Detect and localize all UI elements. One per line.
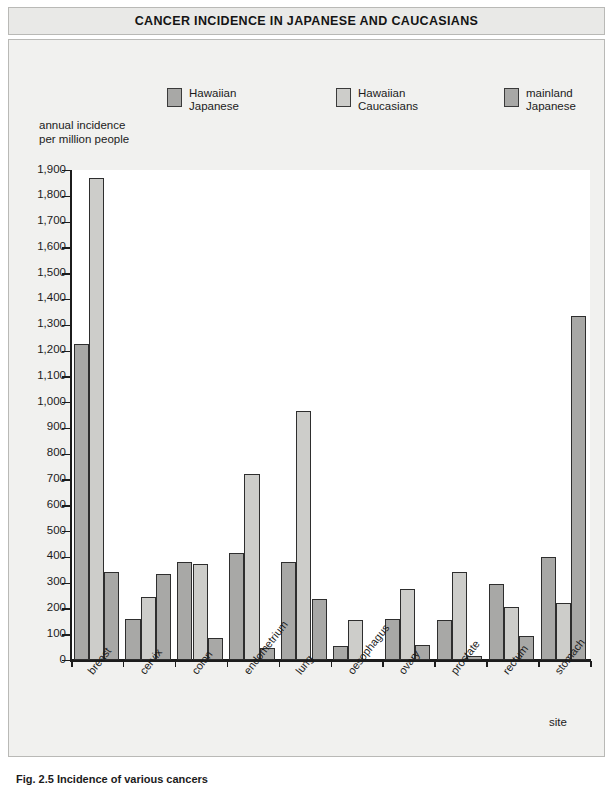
- y-axis-tick-label: 900: [47, 420, 66, 432]
- chart-panel: Hawaiian Japanese Hawaiian Caucasians ma…: [8, 39, 605, 757]
- x-axis-title: site: [549, 716, 567, 728]
- y-axis-tick-label: 1,800: [37, 188, 66, 200]
- y-axis-tick-label: 1,300: [37, 317, 66, 329]
- bar: [437, 620, 452, 660]
- bar: [156, 574, 171, 660]
- bar: [74, 344, 89, 660]
- plot-wrapper: 01002003004005006007008009001,0001,1001,…: [71, 170, 590, 660]
- y-axis-tick-label: 1,500: [37, 266, 66, 278]
- y-axis-tick-label: 1,900: [37, 163, 66, 175]
- x-axis-tick-mark: [123, 661, 125, 667]
- bar: [296, 411, 311, 660]
- y-axis-tick-label: 800: [47, 446, 66, 458]
- x-axis-tick-mark: [175, 661, 177, 667]
- legend-label: Hawaiian Caucasians: [358, 87, 418, 113]
- bar: [312, 599, 327, 660]
- y-axis-tick-label: 0: [60, 653, 66, 665]
- bar: [489, 584, 504, 660]
- legend-item-hawaiian-caucasians: Hawaiian Caucasians: [336, 87, 418, 113]
- x-axis-tick-mark: [538, 661, 540, 667]
- y-axis-tick-label: 100: [47, 627, 66, 639]
- y-axis-tick-label: 700: [47, 472, 66, 484]
- x-axis-tick-mark: [279, 661, 281, 667]
- y-axis-tick-label: 1,100: [37, 369, 66, 381]
- legend-item-hawaiian-japanese: Hawaiian Japanese: [167, 87, 239, 113]
- x-axis-tick-mark: [382, 661, 384, 667]
- x-axis-tick-mark: [71, 661, 73, 667]
- bar: [229, 553, 244, 660]
- y-axis-caption: annual incidence per million people: [39, 118, 129, 146]
- y-axis-tick-label: 1,700: [37, 214, 66, 226]
- legend-label: mainland Japanese: [526, 87, 576, 113]
- x-axis-tick-mark: [590, 661, 592, 667]
- y-axis-tick-label: 1,600: [37, 240, 66, 252]
- y-axis-tick-label: 1,400: [37, 291, 66, 303]
- y-axis-tick-label: 500: [47, 524, 66, 536]
- bar: [333, 646, 348, 660]
- x-axis-tick-mark: [227, 661, 229, 667]
- bar: [281, 562, 296, 660]
- bar: [193, 564, 208, 660]
- legend-swatch-icon: [167, 88, 182, 107]
- y-axis-tick-label: 200: [47, 601, 66, 613]
- bar: [125, 619, 140, 660]
- page-title: CANCER INCIDENCE IN JAPANESE AND CAUCASI…: [135, 14, 479, 28]
- legend-swatch-icon: [336, 88, 351, 107]
- legend-swatch-icon: [504, 88, 519, 107]
- y-axis-tick-label: 300: [47, 575, 66, 587]
- bar: [89, 178, 104, 660]
- plot-area: [71, 170, 590, 660]
- x-axis-tick-mark: [486, 661, 488, 667]
- x-axis-tick-mark: [331, 661, 333, 667]
- figure: CANCER INCIDENCE IN JAPANESE AND CAUCASI…: [8, 7, 605, 759]
- bar: [244, 474, 259, 660]
- bar: [571, 316, 586, 660]
- bar: [541, 557, 556, 660]
- figure-caption: Fig. 2.5 Incidence of various cancers: [16, 773, 208, 785]
- legend-label: Hawaiian Japanese: [189, 87, 239, 113]
- y-axis-line: [70, 170, 72, 661]
- y-axis-tick-label: 1,200: [37, 343, 66, 355]
- y-axis-tick-label: 600: [47, 498, 66, 510]
- chart-title-bar: CANCER INCIDENCE IN JAPANESE AND CAUCASI…: [8, 7, 605, 35]
- y-axis-tick-label: 1,000: [37, 395, 66, 407]
- bar: [177, 562, 192, 660]
- y-axis-tick-label: 400: [47, 549, 66, 561]
- x-axis-tick-mark: [434, 661, 436, 667]
- legend-item-mainland-japanese: mainland Japanese: [504, 87, 576, 113]
